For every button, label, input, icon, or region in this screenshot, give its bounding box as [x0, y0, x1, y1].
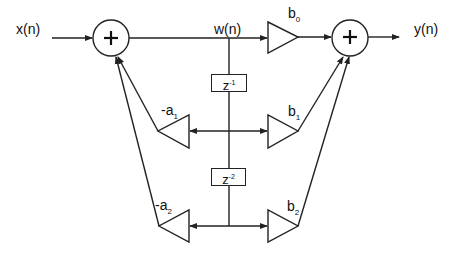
gain-b0-triangle — [268, 22, 298, 53]
gain-b1-label: b1 — [288, 104, 300, 122]
gain-a1-label: -a1 — [161, 103, 178, 121]
diagram-canvas — [0, 0, 456, 257]
output-label: y(n) — [414, 22, 438, 36]
delay-z1-box: z-1 — [211, 74, 247, 92]
delay-z2-exp: -2 — [229, 173, 235, 180]
delay-z1-exp: -1 — [229, 79, 235, 86]
delay-z2-box: z-2 — [211, 168, 246, 186]
b2-feedforward — [298, 57, 349, 226]
a2-feedback — [116, 57, 159, 226]
a1-feedback — [118, 57, 158, 131]
gain-a2-label: -a2 — [155, 198, 172, 216]
input-label: x(n) — [16, 22, 40, 36]
b1-feedforward — [298, 57, 343, 131]
gain-b0-label: b0 — [288, 6, 300, 24]
w-label: w(n) — [214, 22, 241, 36]
gain-b2-label: b2 — [287, 199, 299, 217]
